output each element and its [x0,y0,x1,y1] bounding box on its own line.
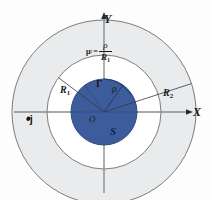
gamma-curve-label: Γ [96,79,102,89]
den-subscript: 1 [107,57,110,63]
r2-radius-label: R2 [163,88,173,99]
inner-region-label: S [110,126,116,137]
fraction-denominator: R1 [99,51,112,63]
r1-base: R [60,84,67,95]
mu-r-formula: μr = ρ R1 [86,41,112,63]
fraction-rho-over-r1: ρ R1 [99,41,112,63]
origin-label: O [89,115,96,124]
r2-base: R [163,87,170,98]
fraction-numerator: ρ [101,41,109,51]
r1-subscript: 1 [67,89,70,96]
y-axis-label: Y [104,13,111,25]
figure-container: Y X Γ ρ R1 R2 O S •j μr = ρ R1 [0,0,210,200]
r1-radius-label: R1 [60,85,70,96]
r2-subscript: 2 [170,92,173,99]
j-point-label: •j [26,114,33,125]
diagram-svg [0,0,210,200]
x-axis-label: X [193,106,201,118]
rho-label: ρ [112,84,117,94]
